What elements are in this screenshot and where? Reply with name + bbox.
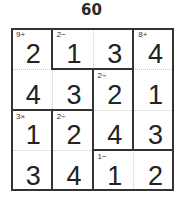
cell-value: 4 <box>95 122 136 149</box>
cell-value: 4 <box>13 82 54 109</box>
cell-value: 1 <box>135 82 176 109</box>
cell-value: 4 <box>54 163 95 190</box>
grid-cell[interactable]: 4 <box>95 112 136 153</box>
cell-value: 4 <box>135 41 176 68</box>
grid-cell[interactable]: 2− 1 <box>54 30 95 71</box>
cell-value: 1 <box>54 41 95 68</box>
cell-value: 2 <box>54 122 95 149</box>
cell-value: 3 <box>54 82 95 109</box>
cell-value: 2 <box>135 163 176 190</box>
cage-clue: 1− <box>98 153 107 161</box>
cage-clue: 3× <box>16 113 25 121</box>
cell-value: 1 <box>13 122 54 149</box>
cell-value: 2 <box>13 41 54 68</box>
grid-cell[interactable]: 2÷ 2 <box>95 71 136 112</box>
cell-value: 1 <box>95 163 136 190</box>
grid-cell[interactable]: 2÷ 2 <box>54 112 95 153</box>
cage-clue: 2÷ <box>98 72 107 80</box>
grid-cell[interactable]: 3 <box>54 71 95 112</box>
cell-value: 3 <box>95 41 136 68</box>
grid-cell[interactable]: 3× 1 <box>13 112 54 153</box>
grid-cell[interactable]: 4 <box>54 152 95 193</box>
cage-clue: 2− <box>57 31 66 39</box>
cell-value: 3 <box>135 122 176 149</box>
puzzle-title: 60 <box>0 1 183 19</box>
grid-cell[interactable]: 3 <box>95 30 136 71</box>
puzzle-grid: 9+ 2 2− 1 3 8+ 4 4 3 2÷ 2 1 3× 1 2÷ 2 4 … <box>11 28 174 191</box>
grid-cell[interactable]: 3 <box>13 152 54 193</box>
cell-value: 2 <box>95 82 136 109</box>
grid-cell[interactable]: 2 <box>135 152 176 193</box>
grid-cell[interactable]: 9+ 2 <box>13 30 54 71</box>
grid-cell[interactable]: 8+ 4 <box>135 30 176 71</box>
cage-clue: 2÷ <box>57 113 66 121</box>
grid-cell[interactable]: 4 <box>13 71 54 112</box>
cage-clue: 8+ <box>138 31 147 39</box>
cage-clue: 9+ <box>16 31 25 39</box>
cell-value: 3 <box>13 163 54 190</box>
grid-cell[interactable]: 1 <box>135 71 176 112</box>
grid-cell[interactable]: 3 <box>135 112 176 153</box>
grid-cell[interactable]: 1− 1 <box>95 152 136 193</box>
